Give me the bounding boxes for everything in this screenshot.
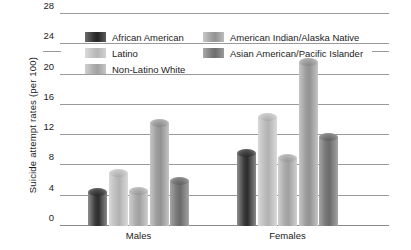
bar-body: [129, 191, 148, 226]
gridline: 16: [60, 104, 389, 105]
bar-body: [237, 153, 256, 226]
bar-body: [109, 173, 128, 226]
bar: [258, 113, 277, 226]
chart-legend: African AmericanAmerican Indian/Alaska N…: [85, 29, 395, 77]
legend-item: American Indian/Alaska Native: [203, 29, 395, 45]
legend-swatch: [203, 48, 224, 58]
y-axis-tick-label: 28: [43, 0, 54, 13]
bar-top-cap: [258, 113, 277, 121]
suicide-attempt-rates-bar-chart: Suicide attempt rates (per 100) 04812162…: [0, 0, 411, 250]
y-axis-tick-label: 12: [43, 121, 54, 134]
legend-label: Latino: [112, 48, 138, 59]
legend-label: American Indian/Alaska Native: [230, 32, 359, 43]
legend-item: African American: [85, 29, 203, 45]
legend-swatch: [203, 32, 224, 42]
gridline: 8: [60, 164, 389, 165]
bar: [88, 188, 107, 226]
bar-top-cap: [319, 133, 338, 141]
bar-top-cap: [150, 119, 169, 127]
x-axis-category-label: Males: [126, 230, 151, 241]
gridline: 12: [60, 134, 389, 135]
bar: [170, 177, 189, 226]
legend-item: Non-Latino White: [85, 61, 203, 77]
bar-top-cap: [278, 154, 297, 162]
bar-body: [319, 137, 338, 226]
legend-item: Latino: [85, 45, 203, 61]
bar-body: [258, 117, 277, 226]
bar: [150, 119, 169, 226]
bar-top-cap: [170, 177, 189, 185]
legend-item: Asian American/Pacific Islander: [203, 45, 395, 61]
bar-body: [299, 62, 318, 226]
bar-body: [150, 123, 169, 226]
bar-top-cap: [109, 169, 128, 177]
y-axis-tick-label: 16: [43, 91, 54, 104]
bar: [109, 169, 128, 226]
legend-label: Non-Latino White: [112, 64, 185, 75]
legend-swatch: [85, 64, 106, 74]
bar: [319, 133, 338, 226]
y-axis-tick-label: 8: [49, 151, 54, 164]
legend-trailing-rule: [372, 51, 389, 52]
bar: [278, 154, 297, 226]
bar-body: [88, 192, 107, 226]
gridline: 28: [60, 13, 389, 14]
legend-leading-rule: [43, 51, 61, 52]
y-axis-title: Suicide attempt rates (per 100): [27, 30, 38, 220]
y-axis-tick-label: 4: [49, 182, 54, 195]
legend-swatch: [85, 32, 106, 42]
bar-top-cap: [237, 149, 256, 157]
bar: [299, 58, 318, 226]
bar-body: [170, 181, 189, 226]
bar-top-cap: [88, 188, 107, 196]
legend-label: African American: [112, 32, 184, 43]
y-axis-tick-label: 24: [43, 30, 54, 43]
x-axis-category-label: Females: [269, 230, 305, 241]
y-axis-tick-label: 0: [49, 212, 54, 225]
legend-swatch: [85, 48, 106, 58]
bar: [237, 149, 256, 226]
legend-label: Asian American/Pacific Islander: [230, 48, 363, 59]
bar: [129, 187, 148, 226]
bar-body: [278, 158, 297, 226]
y-axis-tick-label: 20: [43, 61, 54, 74]
